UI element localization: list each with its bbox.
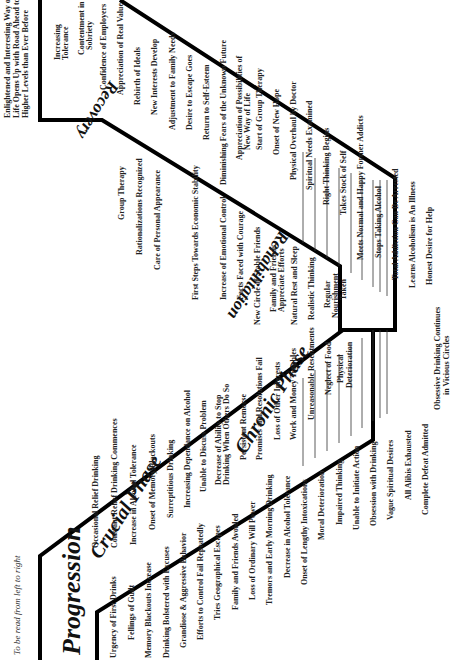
svg-text:Impaired Thinking: Impaired Thinking [335,460,344,525]
svg-text:New Interests Develop: New Interests Develop [150,38,159,115]
final-outcome-line-1: Enlightened and Interesting Way of [3,0,12,118]
svg-text:Appreciate Efforts: Appreciate Efforts [277,248,286,312]
diagram-title: Progression [57,526,86,656]
svg-text:Tries Geographical Escapes: Tries Geographical Escapes [213,525,222,620]
svg-text:Appreciation of Real Value: Appreciation of Real Value [116,2,125,95]
svg-text:Group Therapy: Group Therapy [117,166,126,220]
svg-text:Unable to Initiate Action: Unable to Initiate Action [352,445,361,530]
svg-text:Loss of Other Interests: Loss of Other Interests [273,362,282,440]
svg-text:Obsession with Drinking: Obsession with Drinking [369,442,378,526]
svg-text:New Circle of Stable Friends: New Circle of Stable Friends [253,227,262,325]
svg-text:Physical: Physical [336,354,345,383]
svg-text:Onset of New Hope: Onset of New Hope [272,89,281,155]
svg-text:Vague Spiritual Desires: Vague Spiritual Desires [386,440,395,520]
svg-text:Increase in Alcohol Tolerance: Increase in Alcohol Tolerance [129,444,138,545]
svg-text:Complete Defeat Admitted: Complete Defeat Admitted [421,423,430,515]
svg-text:Adjustment to Family Needs: Adjustment to Family Needs [168,32,177,130]
svg-text:Physical Overhaul by Doctor: Physical Overhaul by Doctor [289,81,298,180]
svg-text:Onset of Memory Blackouts: Onset of Memory Blackouts [148,434,157,530]
svg-text:New Way of Life: New Way of Life [243,93,252,150]
final-outcome-line-2: Life Opens Up with Road Ahead to [12,0,21,118]
vicious-circles-note: Obsessive Drinking Continues [433,307,442,410]
svg-text:Stops Taking Alcohol: Stops Taking Alcohol [374,185,383,258]
svg-text:Family and Friends Avoided: Family and Friends Avoided [231,513,240,610]
svg-text:Memory Blackouts Increase: Memory Blackouts Increase [144,562,153,658]
svg-text:Unable to Discuss Problem: Unable to Discuss Problem [199,400,208,492]
svg-text:Rationalizations Recognized: Rationalizations Recognized [135,158,144,255]
svg-text:Learns Alcoholism is An Illnes: Learns Alcoholism is An Illness [408,181,417,288]
svg-text:Work and Money Troubles: Work and Money Troubles [289,348,298,440]
svg-text:Meets Normal and Happy Former: Meets Normal and Happy Former Addicts [356,115,365,260]
svg-text:Desire to Escape Goes: Desire to Escape Goes [185,55,194,130]
svg-text:Decrease in Alcohol Tolerance: Decrease in Alcohol Tolerance [283,475,292,578]
svg-text:First Steps Towards Economic S: First Steps Towards Economic Stability [191,165,200,300]
svg-text:Honest Desire for Help: Honest Desire for Help [425,206,434,285]
svg-text:Drinking When Others Do So: Drinking When Others Do So [222,384,231,485]
svg-text:Tremors and Early Morning Drin: Tremors and Early Morning Drinking [265,475,274,605]
svg-text:Surreptitious Drinking: Surreptitious Drinking [166,440,175,518]
vicious-circles-note-2: in Vicious Circles [442,336,451,395]
svg-text:Onset of Lengthy Intoxications: Onset of Lengthy Intoxications [300,479,309,585]
svg-text:Diminishing Fears of the Unkno: Diminishing Fears of the Unknown Future [219,40,228,185]
final-outcome-line-3: Higher Levels than Ever Before [21,10,30,118]
svg-text:Loss of Ordinary Will Power: Loss of Ordinary Will Power [248,501,257,600]
svg-text:Efforts to Control Fail Repeat: Efforts to Control Fail Repeatedly [196,523,205,640]
svg-text:Total Addiction Can Be Arreste: Total Addiction Can Be Arrested [391,168,400,280]
svg-text:Care of Personal Appearance: Care of Personal Appearance [153,169,162,270]
svg-text:Realistic Thinking: Realistic Thinking [307,257,316,320]
svg-text:Moral Deterioration: Moral Deterioration [317,470,326,540]
svg-text:Tolerance: Tolerance [61,26,70,60]
svg-text:Neglect of Food: Neglect of Food [324,341,333,395]
svg-text:Right Thinking Begins: Right Thinking Begins [322,128,331,205]
svg-text:Taken: Taken [339,278,348,300]
svg-text:Sobriety: Sobriety [85,21,94,50]
svg-text:Takes Stock of Self: Takes Stock of Self [339,150,348,215]
svg-text:Natural Rest and Sleep: Natural Rest and Sleep [290,246,299,325]
svg-text:Promises and Resolutions Fail: Promises and Resolutions Fail [255,356,264,460]
svg-text:Facts Faced with Courage: Facts Faced with Courage [236,210,245,300]
svg-text:Occasional Relief Drinking: Occasional Relief Drinking [91,456,100,548]
svg-text:Drinking Bolstered with Excuse: Drinking Bolstered with Excuses [162,546,171,658]
svg-text:Increasing Dependance on Alcoh: Increasing Dependance on Alcohol [183,389,192,508]
jellinek-curve-diagram: To be read from left to right Progressio… [0,0,472,660]
svg-text:Urgency of First Drinks: Urgency of First Drinks [109,576,118,658]
svg-text:Grandiose & Aggressive Behavio: Grandiose & Aggressive Behavior [179,532,188,648]
svg-text:Deterioration: Deterioration [345,341,354,388]
svg-text:All Alibis Exhausted: All Alibis Exhausted [404,430,413,500]
svg-text:Persistent Remorse: Persistent Remorse [239,394,248,460]
progression-upper-labels: Occasional Relief Drinking Constant Reli… [91,327,354,548]
svg-text:Confidence of Employers: Confidence of Employers [99,4,108,90]
svg-text:Rebirth of Ideals: Rebirth of Ideals [133,47,142,105]
svg-text:Increase of Emotional Control: Increase of Emotional Control [219,196,228,300]
svg-text:Start of Group Therapy: Start of Group Therapy [255,68,264,150]
reading-note: To be read from left to right [12,555,22,655]
svg-text:Spiritual Needs Examined: Spiritual Needs Examined [305,100,314,190]
svg-text:Fellings of Guilt: Fellings of Guilt [127,585,136,640]
svg-text:Unreasonable Resentments: Unreasonable Resentments [307,327,316,420]
svg-text:Return to Self-Esteem: Return to Self-Esteem [202,64,211,140]
svg-text:Constant Relief Drinking Comme: Constant Relief Drinking Commences [110,418,119,548]
